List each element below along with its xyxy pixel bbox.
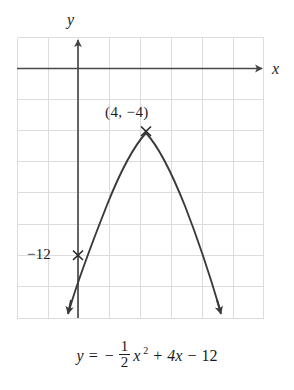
parabola-figure: y x (4, −4) −12 y = − 1 2 x2 + 4x − 12: [0, 0, 294, 390]
equation-row: y = − 1 2 x2 + 4x − 12: [77, 340, 218, 372]
equation-fraction: 1 2: [119, 339, 131, 371]
equation-caption: y = − 1 2 x2 + 4x − 12: [0, 340, 294, 372]
equation-exponent: 2: [143, 346, 148, 356]
equation-variable: x: [133, 348, 140, 364]
y-intercept-value-label: −12: [27, 247, 51, 262]
fraction-denominator: 2: [119, 354, 131, 370]
equation-plus: +: [151, 348, 164, 364]
equation-lhs: y: [77, 348, 84, 364]
graph-canvas: [0, 0, 294, 390]
axes: [17, 40, 262, 318]
equation-constant: 12: [201, 348, 217, 364]
x-axis-label: x: [272, 61, 279, 77]
curve-arrow-right: [217, 300, 221, 314]
equation-equals: =: [87, 348, 100, 364]
vertex-coordinate-label: (4, −4): [105, 105, 149, 120]
grid-lines: [18, 38, 264, 319]
fraction-numerator: 1: [119, 339, 131, 354]
equation-minus: −: [185, 348, 198, 364]
equation-linear-term: 4x: [167, 348, 182, 364]
equation-leading-sign: −: [103, 348, 116, 364]
y-axis-label: y: [67, 12, 74, 28]
